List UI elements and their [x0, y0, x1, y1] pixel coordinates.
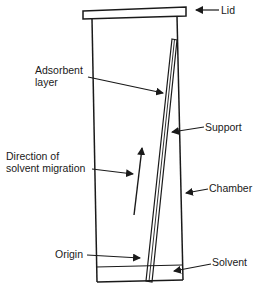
chamber-label-group: Chamber [186, 182, 253, 194]
migration-arrow [134, 148, 142, 215]
solvent-label: Solvent [212, 256, 247, 268]
lid-label-group: Lid [196, 4, 235, 16]
direction-label-line1: Direction of [6, 150, 59, 162]
support-label: Support [205, 121, 242, 133]
adsorbent-label-line2: layer [35, 76, 58, 88]
solvent-level [96, 265, 182, 267]
solvent-label-group: Solvent [174, 256, 247, 271]
tlc-plate [146, 39, 177, 282]
lid-label: Lid [221, 4, 235, 16]
adsorbent-label-line1: Adsorbent [35, 64, 83, 76]
lid [83, 7, 186, 19]
direction-label-line2: solvent migration [6, 162, 86, 174]
adsorbent-label-group: Adsorbent layer [35, 64, 163, 93]
direction-label-group: Direction of solvent migration [6, 150, 133, 174]
origin-label-group: Origin [55, 248, 140, 260]
origin-label: Origin [55, 248, 83, 260]
support-label-group: Support [172, 121, 242, 133]
chromatography-diagram: Lid Adsorbent layer Support Direction of… [0, 0, 262, 286]
chamber [92, 16, 183, 282]
chamber-label: Chamber [209, 182, 253, 194]
